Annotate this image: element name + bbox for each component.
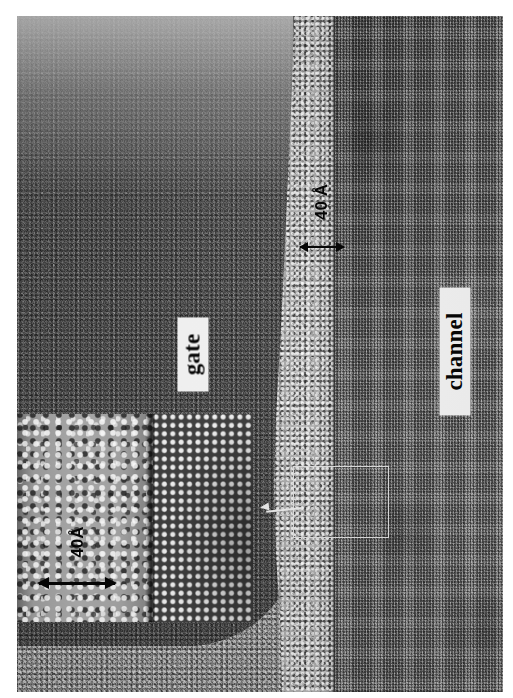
lattice-shading bbox=[153, 414, 253, 622]
gate-label: gate bbox=[178, 318, 209, 392]
oxide-thickness-label: 40 Å bbox=[312, 170, 332, 234]
oxide-thickness-annotation: 40 Å bbox=[299, 166, 345, 262]
lattice-mottle bbox=[335, 16, 503, 692]
inset-thickness-label: 40Å bbox=[68, 511, 88, 573]
magnified-inset: 40Å bbox=[17, 414, 253, 622]
inset-interface-seam bbox=[145, 414, 155, 622]
figure-plate: 40 Å 40Å gate channel bbox=[0, 0, 513, 698]
double-arrow-icon bbox=[300, 246, 344, 248]
double-arrow-icon bbox=[39, 582, 115, 585]
arrow-shaft bbox=[266, 507, 302, 512]
arrow-head bbox=[260, 502, 270, 511]
tem-micrograph: 40 Å 40Å gate channel bbox=[17, 16, 503, 692]
channel-label: channel bbox=[440, 288, 471, 416]
gate-top-gradient bbox=[17, 16, 293, 246]
leader-arrow-icon bbox=[260, 501, 302, 513]
region-of-interest-box bbox=[293, 466, 389, 538]
inset-lattice-panel bbox=[153, 414, 253, 622]
channel-region bbox=[335, 16, 503, 692]
inset-thickness-annotation: 40Å bbox=[53, 510, 113, 596]
